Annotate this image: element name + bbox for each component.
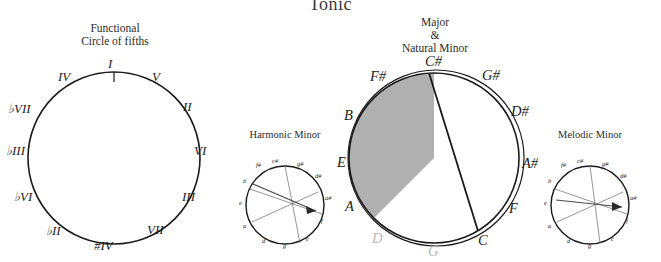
functional-label-II: II bbox=[182, 99, 192, 114]
major-label-F: F bbox=[508, 200, 518, 216]
harmonic-label-e: e bbox=[239, 199, 242, 206]
caption-major-line1: Major bbox=[355, 16, 515, 29]
major-label-Fsharp: F# bbox=[369, 68, 387, 84]
caption-harmonic-minor: Harmonic Minor bbox=[225, 129, 345, 141]
functional-label-V: V bbox=[152, 69, 162, 84]
harmonic-label-fsharp: f# bbox=[256, 161, 262, 168]
functional-label-flatII: ♭II bbox=[46, 223, 61, 238]
major-divider-line bbox=[429, 73, 478, 231]
functional-label-IV: IV bbox=[57, 69, 72, 84]
functional-ring bbox=[28, 72, 200, 244]
caption-major-line3: Natural Minor bbox=[355, 42, 515, 55]
harmonic-label-csharp: c# bbox=[272, 157, 279, 164]
melodic-label-b: b bbox=[548, 177, 552, 184]
melodic-label-f: f bbox=[626, 217, 629, 224]
harmonic-label-f: f bbox=[321, 217, 324, 224]
major-shaded-sector bbox=[349, 73, 434, 218]
melodic-label-csharp: c# bbox=[577, 157, 584, 164]
major-label-A: A bbox=[344, 198, 354, 214]
major-label-Asharp: A# bbox=[521, 155, 539, 171]
major-label-E: E bbox=[336, 154, 346, 170]
caption-major-minor: Major & Natural Minor bbox=[355, 16, 515, 56]
functional-label-sharpIV: #IV bbox=[94, 238, 115, 253]
melodic-label-dsharp: d# bbox=[620, 172, 627, 179]
harmonic-ring bbox=[246, 166, 324, 244]
major-label-D: D bbox=[371, 230, 383, 246]
harmonic-label-gsharp: g# bbox=[297, 160, 304, 167]
functional-label-III: III bbox=[181, 189, 196, 204]
circle-melodic-minor: c# g# d# a# f c g d a e b f# bbox=[544, 157, 637, 249]
harmonic-label-c: c bbox=[306, 235, 309, 242]
circle-major-minor: C# G# D# A# F C G D A E B F# bbox=[336, 53, 539, 259]
functional-label-flatVII: ♭VII bbox=[8, 101, 31, 116]
melodic-label-e: e bbox=[544, 199, 547, 206]
caption-melodic-minor: Melodic Minor bbox=[530, 129, 650, 141]
functional-label-I: I bbox=[107, 56, 113, 71]
functional-label-VII: VII bbox=[147, 222, 164, 237]
circle-functional: I V II VI III VII #IV ♭II ♭VI ♭III ♭VII … bbox=[6, 56, 207, 253]
major-label-Gsharp: G# bbox=[482, 67, 500, 83]
melodic-label-asharp: a# bbox=[630, 194, 637, 201]
harmonic-label-dsharp: d# bbox=[315, 172, 322, 179]
functional-label-flatIII: ♭III bbox=[6, 143, 26, 158]
major-label-B: B bbox=[344, 107, 353, 123]
figure-canvas: Tonic Functional Circle of fifths I V II… bbox=[0, 0, 661, 262]
harmonic-label-b: b bbox=[243, 177, 247, 184]
major-label-Dsharp: D# bbox=[510, 103, 529, 119]
melodic-label-c: c bbox=[611, 235, 614, 242]
major-label-C: C bbox=[478, 232, 488, 248]
functional-label-VI: VI bbox=[194, 143, 207, 158]
major-label-G: G bbox=[428, 243, 439, 259]
harmonic-label-asharp: a# bbox=[325, 194, 332, 201]
harmonic-label-a: a bbox=[243, 222, 246, 229]
melodic-label-gsharp: g# bbox=[602, 160, 609, 167]
circle-harmonic-minor: c# g# d# a# f c g d a e b f# bbox=[239, 157, 332, 249]
caption-major-line2: & bbox=[355, 29, 515, 42]
melodic-label-fsharp: f# bbox=[561, 161, 567, 168]
melodic-label-a: a bbox=[548, 222, 551, 229]
functional-label-flatVI: ♭VI bbox=[14, 189, 33, 204]
